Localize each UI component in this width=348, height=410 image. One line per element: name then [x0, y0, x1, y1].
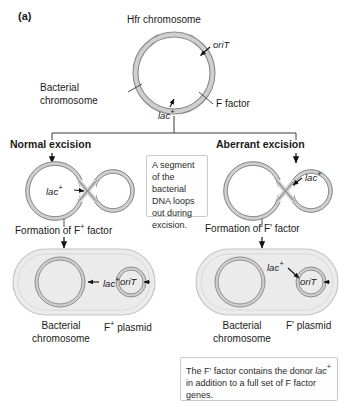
lac-label-top-text: lac [158, 110, 170, 121]
f-factor-label: F factor [216, 98, 250, 110]
normal-excision-heading: Normal excision [10, 138, 91, 150]
aberrant-excision-heading: Aberrant excision [216, 138, 305, 150]
bacterial-chromosome-label-top-line1: Bacterial [40, 82, 116, 95]
lac-label-normal-text: lac [46, 186, 58, 197]
right-cell-chromosome-caption-line2: chromosome [205, 333, 279, 346]
formation-f-plus-text: Formation of F [15, 225, 80, 236]
lac-label-top-sup: + [170, 107, 174, 116]
hfr-chromosome-title: Hfr chromosome [127, 14, 201, 26]
lac-label-left-cell-sup: + [115, 275, 119, 284]
formation-f-plus-label: Formation of F+ factor [15, 223, 112, 237]
orit-label-left-plasmid: oriT [120, 276, 136, 287]
callout-f-prime-note-gene: lac [315, 366, 327, 376]
left-cell-plasmid-caption: F+ plasmid [104, 320, 152, 334]
callout-f-prime-note-part1: The F′ factor contains the donor [186, 366, 315, 376]
lac-label-right-plasmid-text: lac [267, 262, 279, 273]
left-cell-chromosome-caption-line2: chromosome [24, 333, 98, 346]
lac-label-aberrant: lac+ [305, 170, 322, 183]
right-cell-chromosome-caption-line1: Bacterial [205, 320, 279, 333]
figure-panel-a: (a) Hfr chromosome oriT Bacterial chromo… [0, 0, 348, 410]
lac-label-top: lac+ [158, 108, 175, 121]
panel-label: (a) [18, 10, 31, 23]
left-cell-chromosome-caption: Bacterial chromosome [24, 320, 98, 345]
left-cell-plasmid-caption-tail: plasmid [115, 322, 152, 333]
lac-label-aberrant-text: lac [305, 172, 317, 183]
lac-label-right-plasmid: lac+ [267, 260, 284, 273]
lac-label-left-cell: lac+ [103, 276, 120, 289]
bacterial-chromosome-label-top: Bacterial chromosome [40, 82, 116, 107]
callout-f-prime-note-gene-sup: + [327, 362, 331, 371]
callout-f-prime-note: The F′ factor contains the donor lac+ in… [180, 357, 338, 401]
lac-label-right-plasmid-sup: + [279, 259, 283, 268]
lac-label-normal-sup: + [58, 183, 62, 192]
right-cell-chromosome-caption: Bacterial chromosome [205, 320, 279, 345]
right-bacterial-cell [196, 249, 338, 315]
bacterial-chromosome-label-top-line2: chromosome [40, 95, 116, 108]
lac-label-normal: lac+ [46, 184, 63, 197]
callout-excision-note: A segment of the bacterial DNA loops out… [146, 155, 208, 217]
lac-label-left-cell-text: lac [103, 278, 115, 289]
lac-pointer-top [170, 99, 174, 107]
formation-f-plus-tail: factor [84, 225, 112, 236]
hfr-chromosome-ring [133, 32, 215, 114]
orit-label-right-plasmid: oriT [300, 276, 316, 287]
right-cell-plasmid-caption: F′ plasmid [286, 320, 331, 332]
orit-label-top: oriT [213, 39, 229, 50]
formation-f-prime-label: Formation of F′ factor [205, 223, 300, 235]
callout-f-prime-note-part2: in addition to a full set of F factor ge… [186, 378, 316, 400]
left-cell-chromosome-caption-line1: Bacterial [24, 320, 98, 333]
lac-label-aberrant-sup: + [317, 169, 321, 178]
